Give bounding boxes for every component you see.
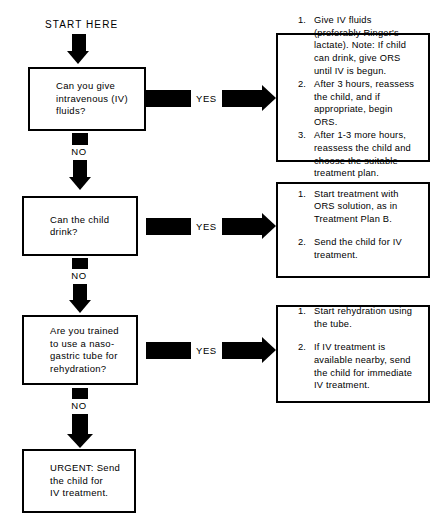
list-item-text: Give IV fluids (preferably Ringer's lact… <box>314 15 406 75</box>
yes-connector-child-drink: YES <box>146 213 276 239</box>
no-arrowhead-icon <box>69 177 91 190</box>
decision-text-nasogastric: Are you trained to use a naso- gastric t… <box>24 325 127 375</box>
yes-connector-nasogastric: YES <box>146 337 276 363</box>
list-item: 2. If IV treatment is available nearby, … <box>298 341 418 391</box>
no-label-nasogastric: NO <box>62 400 96 411</box>
list-item-number: 1. <box>298 305 306 318</box>
no-arrow-shaft <box>73 284 87 300</box>
outcome-list-iv-fluids: 1. Give IV fluids (preferably Ringer's l… <box>278 14 428 181</box>
list-item-text: Send the child for IV treatment. <box>314 237 402 260</box>
yes-label-iv-fluids: YES <box>191 93 222 104</box>
yes-bar-segment-right <box>222 90 262 107</box>
yes-bar-segment-left <box>146 90 191 107</box>
no-arrowhead-icon <box>69 300 91 313</box>
no-connector-child-drink: NO <box>62 258 96 314</box>
start-down-arrow <box>67 34 91 64</box>
decision-text-iv-fluids: Can you give intravenous (IV) fluids? <box>30 80 136 118</box>
yes-arrowhead-icon <box>262 213 276 239</box>
list-item: 1. Give IV fluids (preferably Ringer's l… <box>298 14 418 77</box>
yes-bar-segment-right <box>222 218 262 235</box>
flowchart-canvas: START HERE Can you give intravenous (IV)… <box>0 0 447 528</box>
no-connector-nasogastric: NO <box>62 388 96 448</box>
decision-box-nasogastric[interactable]: Are you trained to use a naso- gastric t… <box>22 315 138 385</box>
list-item-number: 2. <box>298 341 306 354</box>
outcome-box-child-drink: 1. Start treatment with ORS solution, as… <box>276 182 430 278</box>
yes-bar-segment-left <box>146 218 191 235</box>
no-label-child-drink: NO <box>62 270 96 281</box>
list-item-text: After 1-3 more hours, reassess the child… <box>314 130 411 178</box>
terminal-text-urgent-referral: URGENT: Send the child for IV treatment. <box>24 462 128 500</box>
list-item-text: Start rehydration using the tube. <box>314 306 412 329</box>
decision-box-iv-fluids[interactable]: Can you give intravenous (IV) fluids? <box>28 67 146 131</box>
list-item-number: 3. <box>298 129 306 142</box>
yes-arrowhead-icon <box>262 337 276 363</box>
no-label-iv-fluids: NO <box>62 146 96 157</box>
list-item: 1. Start treatment with ORS solution, as… <box>298 188 418 226</box>
yes-connector-iv-fluids: YES <box>146 85 276 111</box>
list-item-number: 2. <box>298 236 306 249</box>
list-item: 3. After 1-3 more hours, reassess the ch… <box>298 129 418 179</box>
list-item: 2. Send the child for IV treatment. <box>298 236 418 261</box>
yes-bar-segment-right <box>222 342 262 359</box>
yes-arrowhead-icon <box>262 85 276 111</box>
no-arrow-shaft <box>72 414 88 434</box>
list-item: 1. Start rehydration using the tube. <box>298 305 418 330</box>
no-arrowhead-icon <box>67 434 93 448</box>
yes-label-nasogastric: YES <box>191 345 222 356</box>
list-item-number: 2. <box>298 78 306 91</box>
yes-bar-segment-left <box>146 342 191 359</box>
outcome-list-child-drink: 1. Start treatment with ORS solution, as… <box>278 188 428 273</box>
no-bar-segment <box>72 133 88 145</box>
list-item-text: Start treatment with ORS solution, as in… <box>314 189 399 224</box>
list-item-text: If IV treatment is available nearby, sen… <box>314 342 412 390</box>
list-item-number: 1. <box>298 14 306 27</box>
no-bar-segment <box>72 258 88 269</box>
yes-label-child-drink: YES <box>191 221 222 232</box>
terminal-box-urgent-referral[interactable]: URGENT: Send the child for IV treatment. <box>22 449 136 513</box>
outcome-box-iv-fluids: 1. Give IV fluids (preferably Ringer's l… <box>276 33 430 162</box>
decision-text-child-drink: Can the child drink? <box>24 214 117 239</box>
list-item-text: After 3 hours, reassess the child, and i… <box>314 79 414 127</box>
no-bar-segment <box>72 388 88 399</box>
list-item-number: 1. <box>298 188 306 201</box>
decision-box-child-drink[interactable]: Can the child drink? <box>22 196 138 256</box>
no-connector-iv-fluids: NO <box>62 133 96 191</box>
list-item: 2. After 3 hours, reassess the child, an… <box>298 78 418 128</box>
outcome-box-nasogastric: 1. Start rehydration using the tube. 2. … <box>276 305 430 403</box>
start-here-label: START HERE <box>45 19 118 30</box>
no-arrow-shaft <box>73 160 87 177</box>
outcome-list-nasogastric: 1. Start rehydration using the tube. 2. … <box>278 305 428 403</box>
